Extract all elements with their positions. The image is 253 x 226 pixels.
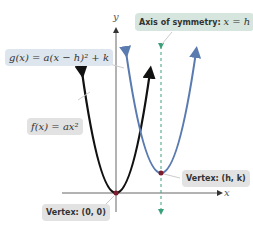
vertex-origin-dot bbox=[114, 191, 119, 196]
x-axis-label: x bbox=[224, 187, 230, 198]
g-equation-label: g(x) = a(x − h)² + k bbox=[5, 49, 113, 66]
diagram-canvas: y x bbox=[0, 0, 253, 226]
y-axis-label: y bbox=[112, 11, 119, 22]
axis-of-symmetry-label: Axis of symmetry: x = h bbox=[135, 13, 253, 31]
vertex-hk-label: Vertex: (h, k) bbox=[182, 170, 250, 187]
parabola-diagram: y x Axis of symmetry: x = h g(x) = a(x −… bbox=[0, 0, 253, 226]
vertex-origin-label: Vertex: (0, 0) bbox=[42, 204, 110, 221]
vertex-hk-dot bbox=[159, 171, 164, 176]
f-equation-label: f(x) = ax² bbox=[27, 118, 83, 135]
